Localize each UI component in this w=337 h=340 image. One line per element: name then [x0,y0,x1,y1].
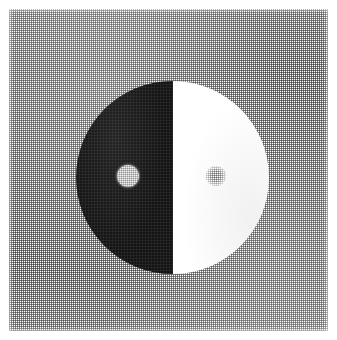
gray-eye-dot [206,166,226,186]
light-eye-dot [117,165,139,187]
figure-title: Taijitu (yin-yang) disc, halftone print [0,0,1,1]
yin-yang-disc [76,81,269,274]
figure-canvas: Taijitu (yin-yang) disc, halftone print [0,0,337,340]
